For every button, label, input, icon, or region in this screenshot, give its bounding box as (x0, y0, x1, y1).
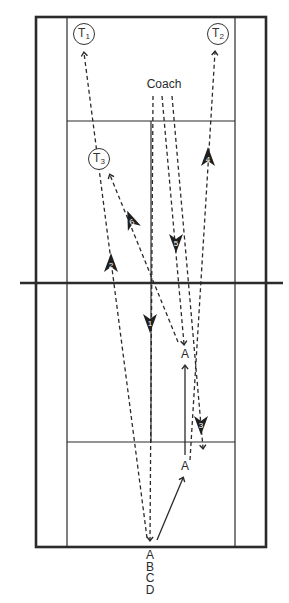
target-t2: T2 (207, 23, 229, 45)
move-start-to-a-rear (157, 478, 183, 540)
shot-marker-5: 5 (169, 234, 183, 253)
path-coach-to-a-mid (162, 96, 184, 344)
svg-text:5: 5 (174, 239, 179, 248)
court-lines (20, 17, 283, 547)
player-movements (157, 366, 185, 540)
coach-label: Coach (140, 78, 188, 90)
position-a-mid: A (179, 348, 191, 360)
queue-label-d: D (144, 585, 156, 597)
position-a-rear: A (179, 460, 191, 472)
start-queue-labels: A B C D (144, 550, 156, 596)
shot-marker-2: 2 (104, 253, 118, 272)
shot-marker-1: 1 (143, 314, 157, 333)
svg-text:2: 2 (109, 261, 114, 270)
svg-text:3: 3 (199, 421, 204, 430)
shot-marker-6: 6 (121, 208, 141, 231)
path-start-to-t1 (84, 53, 147, 538)
path-coach-to-rear (172, 96, 203, 448)
svg-text:4: 4 (206, 155, 211, 164)
path-to-t3 (110, 175, 178, 342)
target-t1: T1 (73, 23, 95, 45)
court-diagram: 1 2 3 4 5 6 T1 (0, 0, 289, 603)
target-t3: T3 (88, 148, 110, 170)
shot-marker-4: 4 (201, 147, 215, 166)
shot-paths (84, 52, 215, 540)
path-to-t2 (190, 52, 215, 460)
court-svg: 1 2 3 4 5 6 (0, 0, 289, 603)
svg-text:1: 1 (148, 319, 153, 328)
